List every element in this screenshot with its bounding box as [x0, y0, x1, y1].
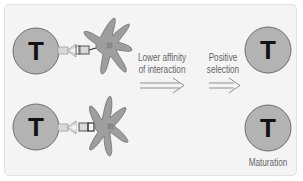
- t-cell-letter: T: [260, 35, 276, 65]
- dendritic-cell-bottom: [89, 96, 128, 156]
- t-cell-bottom-right: T: [245, 105, 291, 151]
- diagram-canvas: T T: [0, 0, 303, 181]
- t-cell-top-right: T: [245, 27, 291, 73]
- mhc-molecule-bottom: [79, 123, 94, 131]
- t-cell-letter: T: [260, 113, 276, 143]
- t-cell-receptor-top: [58, 44, 76, 57]
- lower-affinity-line2: of interaction: [132, 64, 191, 76]
- maturation-label: Maturation: [242, 157, 294, 169]
- t-cell-bottom-left: T: [13, 104, 59, 150]
- mhc-molecule-top: [76, 46, 96, 54]
- dendritic-cell-top: [84, 18, 132, 74]
- t-cell-top-left: T: [13, 28, 59, 74]
- lower-affinity-line1: Lower affinity: [132, 52, 191, 64]
- t-cell-letter: T: [28, 112, 44, 142]
- t-cell-receptor-bottom: [58, 121, 76, 134]
- positive-selection-line1: Positive: [204, 52, 242, 64]
- arrow-lower-affinity: [140, 78, 184, 93]
- positive-selection-label: Positive selection: [204, 52, 242, 76]
- arrow-positive-selection: [209, 78, 240, 93]
- t-cell-letter: T: [28, 36, 44, 66]
- positive-selection-line2: selection: [204, 64, 242, 76]
- maturation-text: Maturation: [242, 157, 294, 169]
- lower-affinity-label: Lower affinity of interaction: [132, 52, 191, 76]
